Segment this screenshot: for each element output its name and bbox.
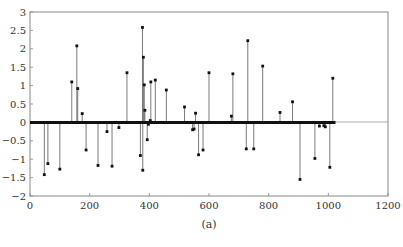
y-tick-label: −0.5 [2,135,26,146]
stem-marker [43,173,46,176]
figure-caption: (a) [201,218,216,231]
stem-marker [208,71,211,74]
stem-marker [139,154,142,157]
stem-marker [324,125,327,128]
y-tick-label: 2 [20,43,26,54]
stem-marker [142,56,145,59]
stem-marker [111,165,114,168]
stem-marker [279,111,282,114]
stem-marker [143,109,146,112]
stems [44,27,332,179]
stem-marker [202,149,205,152]
stem-marker [58,168,61,171]
x-tick-label: 0 [27,200,33,211]
stem-marker [291,100,294,103]
y-tick-label: 1 [20,80,26,91]
stem-marker [318,125,321,128]
y-tick-label: −1.5 [2,172,26,183]
stem-marker [183,106,186,109]
stem-marker [149,81,152,84]
stem-marker [299,178,302,181]
stem-marker [245,147,248,150]
x-tick-label: 800 [259,200,278,211]
stem-marker [118,126,121,129]
stem-marker [141,26,144,29]
stem-marker [165,89,168,92]
y-tick-label: 0.5 [10,99,26,110]
y-axis: −2−1.5−1−0.500.511.522.53 [2,7,33,202]
stem-marker [81,112,84,115]
y-tick-label: 0 [20,117,26,128]
y-tick-label: 2.5 [10,25,26,36]
stem-marker [106,130,109,133]
x-tick-label: 600 [199,200,218,211]
stem-marker [47,162,50,165]
stem-marker [147,123,150,126]
stem-marker [314,157,317,160]
stem-marker [85,149,88,152]
x-tick-label: 400 [140,200,159,211]
stem-marker [194,112,197,115]
stem-marker [331,77,334,80]
y-tick-label: −1 [11,154,26,165]
stem-marker [149,119,152,122]
stem-marker [231,72,234,75]
y-tick-label: 3 [20,7,26,18]
stem-marker [230,115,233,118]
stem-marker [261,65,264,68]
y-tick-label: 1.5 [10,62,26,73]
stem-marker [252,147,255,150]
stem-chart: −2−1.5−1−0.500.511.522.53 02004006008001… [0,0,403,247]
stem-marker [193,128,196,131]
x-tick-label: 200 [80,200,99,211]
stem-marker [154,79,157,82]
stem-marker [126,71,129,74]
stem-marker [143,83,146,86]
stem-marker [97,164,100,167]
stem-marker [146,138,149,141]
stem-marker [141,169,144,172]
stem-marker [197,153,200,156]
stem-marker [76,87,79,90]
x-tick-label: 1000 [316,200,341,211]
stem-marker [75,44,78,47]
stem-marker [70,81,73,84]
stem-marker [246,39,249,42]
markers [43,26,334,181]
stem-marker [328,166,331,169]
x-tick-label: 1200 [375,200,400,211]
y-tick-label: −2 [11,191,26,202]
